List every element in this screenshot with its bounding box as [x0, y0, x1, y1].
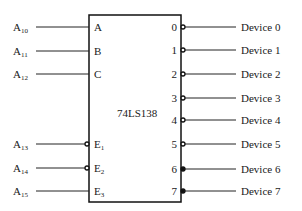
output-pin-5: 5 — [171, 138, 177, 150]
pin-label-c: C — [94, 68, 101, 80]
output-pin-4: 4 — [171, 114, 177, 126]
pin-label-b: B — [94, 45, 101, 57]
output-pin-3: 3 — [171, 92, 177, 104]
device-label-3: Device 3 — [241, 92, 280, 104]
pin-label-e1: E1 — [94, 138, 104, 150]
inversion-bubble-icon — [181, 96, 185, 100]
pin-label-e2: E2 — [94, 162, 104, 174]
inversion-bubble-icon — [85, 166, 89, 170]
inversion-bubble-icon — [181, 167, 185, 171]
inversion-bubble-icon — [181, 189, 185, 193]
inversion-bubble-icon — [181, 25, 185, 29]
input-label-a15: A15 — [13, 185, 28, 197]
output-lines — [181, 25, 236, 193]
input-label-a13: A13 — [13, 138, 28, 150]
device-label-5: Device 5 — [241, 138, 280, 150]
output-pin-7: 7 — [171, 185, 177, 197]
input-label-a11: A11 — [13, 45, 28, 57]
device-label-0: Device 0 — [241, 21, 280, 33]
device-label-7: Device 7 — [241, 185, 280, 197]
output-pin-0: 0 — [171, 21, 177, 33]
inversion-bubble-icon — [181, 72, 185, 76]
chip-name-label: 74LS138 — [117, 107, 157, 119]
output-pin-2: 2 — [171, 68, 177, 80]
pin-label-e3: E3 — [94, 185, 104, 197]
inversion-bubble-icon — [85, 142, 89, 146]
device-label-2: Device 2 — [241, 68, 280, 80]
device-label-4: Device 4 — [241, 114, 280, 126]
pin-label-a: A — [94, 21, 102, 33]
input-label-a14: A14 — [13, 162, 28, 174]
device-label-1: Device 1 — [241, 44, 280, 56]
output-pin-1: 1 — [171, 44, 177, 56]
device-label-6: Device 6 — [241, 163, 280, 175]
input-label-a12: A12 — [13, 68, 28, 80]
input-label-a10: A10 — [13, 21, 28, 33]
output-pin-6: 6 — [171, 163, 177, 175]
inversion-bubble-icon — [181, 48, 185, 52]
inversion-bubble-icon — [181, 142, 185, 146]
inversion-bubble-icon — [181, 118, 185, 122]
